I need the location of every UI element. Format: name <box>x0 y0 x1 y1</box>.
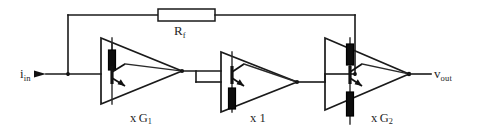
amplifier-3-internal-resistor-top <box>347 44 354 65</box>
feedback-resistor-label-main: R <box>174 23 183 38</box>
amplifier-3-emitter-arrow-icon <box>355 79 363 86</box>
feedback-resistor-label-sub: f <box>183 30 186 40</box>
input-current-label: iin <box>20 67 31 80</box>
amplifier-3-internal-resistor-bottom <box>347 92 354 116</box>
circuit-diagram: Rf iin vout xG1 x 1 xG2 <box>0 0 480 138</box>
feedback-resistor-rf <box>158 9 215 21</box>
input-current-label-sub: in <box>24 73 31 83</box>
amplifier-2-internal-resistor <box>229 88 236 109</box>
amplifier-3-label-gain: G <box>380 111 389 125</box>
amplifier-2-label: x 1 <box>250 112 266 125</box>
amplifier-1-label-prefix: x <box>130 111 136 125</box>
amplifier-3-input-node-dot <box>353 72 357 76</box>
amplifier-1-emitter-arrow-icon <box>118 79 126 86</box>
output-voltage-label-sub: out <box>441 73 453 83</box>
amplifier-3-label-sub: 2 <box>389 117 393 126</box>
output-voltage-label: vout <box>434 67 452 80</box>
amplifier-2-label-text: x 1 <box>250 111 266 125</box>
output-voltage-label-main: v <box>434 66 441 81</box>
input-node-dot <box>66 72 70 76</box>
circuit-schematic-svg <box>0 0 480 138</box>
amplifier-2-emitter-arrow-icon <box>237 79 245 86</box>
amplifier-3-label: xG2 <box>371 112 393 125</box>
amplifier-3-label-prefix: x <box>371 111 377 125</box>
amplifier-2-transistor-collector <box>232 64 244 72</box>
amplifier-1-label: xG1 <box>130 112 152 125</box>
amplifier-2-collector-to-output <box>244 64 297 82</box>
amplifier-1-label-gain: G <box>139 111 148 125</box>
amplifier-1-label-sub: 1 <box>148 117 152 126</box>
amplifier-3-collector-to-output <box>362 64 409 74</box>
input-current-arrow-icon <box>34 71 46 78</box>
feedback-resistor-label: Rf <box>174 24 186 37</box>
